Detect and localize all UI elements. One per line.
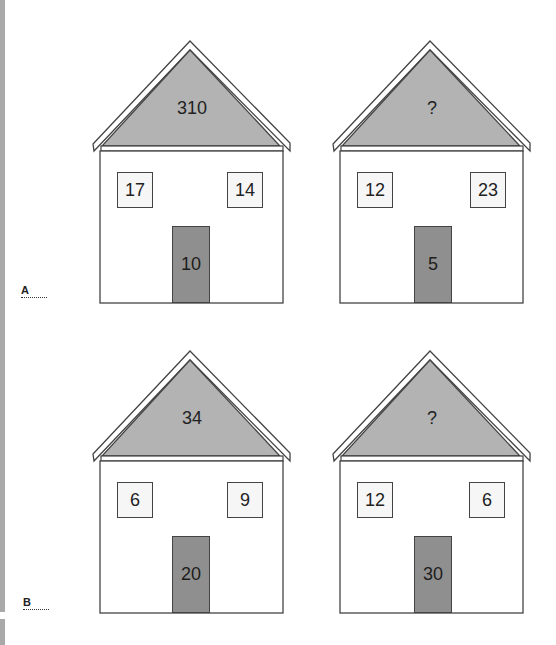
row-label-a: A (21, 284, 47, 298)
page-edge-bar (0, 0, 5, 612)
row-label-text: B (23, 596, 31, 608)
page-edge-bar (0, 619, 5, 645)
window-left: 12 (357, 172, 393, 208)
roof-value-unknown: ? (332, 408, 532, 429)
row-label-text: A (21, 284, 29, 296)
roof-value: 310 (92, 98, 292, 119)
roof-value: 34 (92, 408, 292, 429)
house-b-2: ? 12 6 30 (332, 348, 532, 618)
row-label-b: B (23, 596, 49, 610)
window-right: 6 (469, 482, 505, 518)
answer-blank[interactable] (23, 609, 49, 610)
house-b-1: 34 6 9 20 (92, 348, 292, 618)
house-a-1: 310 17 14 10 (92, 38, 292, 308)
window-right: 23 (470, 172, 506, 208)
door: 20 (172, 536, 210, 613)
window-right: 9 (227, 482, 263, 518)
door: 10 (172, 226, 210, 303)
window-right: 14 (227, 172, 263, 208)
roof-value-unknown: ? (332, 98, 532, 119)
window-left: 12 (357, 482, 393, 518)
window-left: 6 (117, 482, 153, 518)
door: 30 (414, 536, 452, 613)
door: 5 (414, 226, 452, 303)
window-left: 17 (117, 172, 153, 208)
answer-blank[interactable] (21, 297, 47, 298)
house-a-2: ? 12 23 5 (332, 38, 532, 308)
